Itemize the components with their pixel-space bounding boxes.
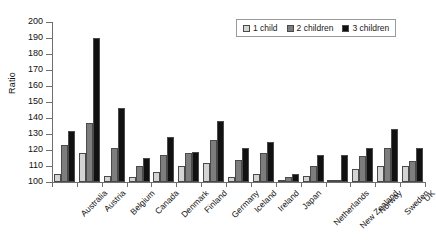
bar: [217, 121, 224, 182]
bar: [242, 148, 249, 182]
legend-item: 1 child: [243, 23, 278, 33]
bar: [352, 169, 359, 182]
bar: [79, 153, 86, 182]
bar: [384, 148, 391, 182]
bar: [86, 123, 93, 182]
x-axis-tick: [151, 182, 152, 187]
x-axis-label: Ireland: [276, 188, 301, 213]
x-axis-tick: [400, 182, 401, 187]
x-axis-tick: [350, 182, 351, 187]
bar: [111, 148, 118, 182]
x-axis-label: Canada: [153, 188, 181, 216]
bar: [303, 176, 310, 182]
y-axis-title: Ratio: [7, 53, 17, 113]
bar-group: [402, 22, 423, 182]
bar: [228, 177, 235, 182]
y-axis-tick-label: 170: [28, 64, 43, 75]
y-axis-tick-label: 180: [28, 48, 43, 59]
bar: [136, 166, 143, 182]
bar: [203, 163, 210, 182]
bar-group: [203, 22, 224, 182]
y-axis-tick-label: 160: [28, 80, 43, 91]
bar-group: [178, 22, 199, 182]
bar-group: [129, 22, 150, 182]
bar: [93, 38, 100, 182]
legend-swatch-icon: [287, 25, 294, 32]
bar-group: [303, 22, 324, 182]
y-axis-tick-label: 120: [28, 144, 43, 155]
bar: [377, 166, 384, 182]
bar-group: [228, 22, 249, 182]
legend-item-label: 1 child: [253, 23, 278, 33]
bar: [327, 180, 334, 182]
bar: [143, 158, 150, 182]
bar: [104, 176, 111, 182]
x-axis-tick: [77, 182, 78, 187]
bar: [185, 153, 192, 182]
y-axis-tick-label: 140: [28, 112, 43, 123]
x-axis-tick: [425, 182, 426, 187]
plot-area: [52, 22, 425, 182]
bar-group: [253, 22, 274, 182]
x-axis-tick: [201, 182, 202, 187]
bar: [61, 145, 68, 182]
bar-chart: Ratio 100110120130140150160170180190200 …: [0, 0, 436, 246]
bar: [285, 177, 292, 182]
legend-item-label: 3 children: [352, 23, 389, 33]
y-axis-tick-label: 200: [28, 16, 43, 27]
bar-group: [104, 22, 125, 182]
chart-legend: 1 child2 children3 children: [236, 19, 396, 37]
bar: [292, 174, 299, 182]
bar-group: [352, 22, 373, 182]
y-axis-tick-label: 100: [28, 176, 43, 187]
legend-item-label: 2 children: [297, 23, 334, 33]
x-axis-tick: [375, 182, 376, 187]
bar: [210, 140, 217, 182]
y-axis-tick-label: 150: [28, 96, 43, 107]
bar: [402, 166, 409, 182]
x-axis-tick: [127, 182, 128, 187]
legend-item: 2 children: [287, 23, 334, 33]
x-axis-tick: [102, 182, 103, 187]
bar: [160, 155, 167, 182]
bar: [167, 137, 174, 182]
bar: [178, 166, 185, 182]
x-axis-label: Belgium: [128, 188, 157, 217]
bar-group: [54, 22, 75, 182]
bar-group: [153, 22, 174, 182]
bar: [260, 153, 267, 182]
y-axis-tick-label: 130: [28, 128, 43, 139]
x-axis-tick: [301, 182, 302, 187]
y-axis-tick-label: 190: [28, 32, 43, 43]
x-axis-tick: [251, 182, 252, 187]
x-axis-tick: [326, 182, 327, 187]
bar: [334, 180, 341, 182]
legend-swatch-icon: [243, 25, 250, 32]
x-axis-line: [52, 182, 426, 183]
bar: [416, 148, 423, 182]
bar-group: [377, 22, 398, 182]
bar: [118, 108, 125, 182]
bar: [68, 131, 75, 182]
bar: [409, 161, 416, 182]
bar: [317, 155, 324, 182]
bar-group: [79, 22, 100, 182]
bar: [54, 174, 61, 182]
bar: [341, 155, 348, 182]
legend-item: 3 children: [342, 23, 389, 33]
bar: [129, 177, 136, 182]
bar: [391, 129, 398, 182]
x-axis-label: Japan: [300, 188, 323, 211]
x-axis-tick: [276, 182, 277, 187]
bar: [192, 152, 199, 182]
bar-group: [278, 22, 299, 182]
bar: [235, 160, 242, 182]
bar: [359, 156, 366, 182]
legend-swatch-icon: [342, 25, 349, 32]
bar: [153, 172, 160, 182]
x-axis-tick: [52, 182, 53, 187]
x-axis-tick: [226, 182, 227, 187]
x-axis-tick: [176, 182, 177, 187]
bar: [267, 142, 274, 182]
bar-group: [327, 22, 348, 182]
